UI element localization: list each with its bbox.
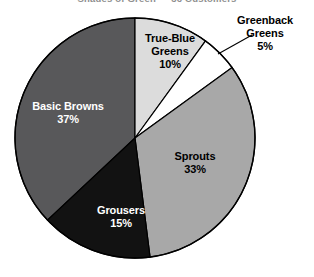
slice-label-basic-browns-name: Basic Browns bbox=[16, 100, 120, 113]
slice-label-true-blue-greens-value: 10% bbox=[134, 58, 206, 71]
slice-label-grousers-value: 15% bbox=[78, 217, 164, 230]
slice-label-true-blue-greens: True-Blue Greens 10% bbox=[134, 32, 206, 71]
slice-label-basic-browns: Basic Browns 37% bbox=[16, 100, 120, 126]
slice-label-greenback-greens-name: Greenback bbox=[222, 14, 308, 27]
slice-label-true-blue-greens-name2: Greens bbox=[134, 45, 206, 58]
slice-label-sprouts-name: Sprouts bbox=[152, 150, 238, 163]
slice-label-sprouts-value: 33% bbox=[152, 163, 238, 176]
slice-label-basic-browns-value: 37% bbox=[16, 113, 120, 126]
slice-label-sprouts: Sprouts 33% bbox=[152, 150, 238, 176]
pie-chart: Shades of Green — 36 Customers Basic Bro… bbox=[0, 0, 314, 277]
slice-label-greenback-greens-name2: Greens bbox=[222, 27, 308, 40]
slice-label-greenback-greens-value: 5% bbox=[222, 40, 308, 53]
slice-label-greenback-greens: Greenback Greens 5% bbox=[222, 14, 308, 53]
slice-label-grousers: Grousers 15% bbox=[78, 204, 164, 230]
slice-label-true-blue-greens-name: True-Blue bbox=[134, 32, 206, 45]
slice-label-grousers-name: Grousers bbox=[78, 204, 164, 217]
